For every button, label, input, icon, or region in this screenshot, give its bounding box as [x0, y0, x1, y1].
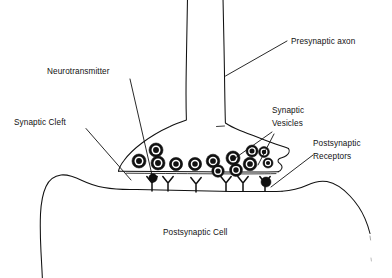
label-synaptic-vesicles-line2: Vesicles	[272, 119, 303, 128]
synapse-illustration: Presynaptic axon Neurotransmitter Synapt…	[0, 0, 392, 278]
label-presynaptic-axon: Presynaptic axon	[291, 37, 356, 46]
presynaptic-membrane-line-inner	[126, 173, 276, 174]
leader-postsynaptic-receptors	[271, 155, 313, 187]
synaptic-vesicle	[243, 157, 257, 171]
synaptic-vesicle	[226, 151, 240, 165]
labels-group: Presynaptic axon Neurotransmitter Synapt…	[14, 37, 361, 237]
postsynaptic-cell-shape	[40, 175, 371, 278]
postsynaptic-left-contour	[40, 175, 137, 278]
synapse-diagram: Presynaptic axon Neurotransmitter Synapt…	[0, 0, 392, 278]
synaptic-vesicle	[149, 143, 163, 157]
postsynaptic-receptor	[191, 178, 201, 193]
postsynaptic-right-contour	[282, 181, 370, 233]
label-postsynaptic-receptors-line1: Postsynaptic	[313, 139, 361, 148]
neurotransmitter-dots-group	[149, 174, 271, 187]
synaptic-vesicle	[169, 157, 182, 170]
synaptic-vesicle	[188, 157, 201, 170]
synaptic-vesicle	[230, 164, 243, 177]
postsynaptic-receptor	[163, 177, 173, 192]
label-synaptic-vesicles-line1: Synaptic	[272, 106, 304, 115]
synaptic-vesicle	[259, 147, 270, 158]
synaptic-vesicle	[263, 158, 273, 168]
postsynaptic-receptor	[238, 177, 248, 192]
synaptic-vesicle	[151, 156, 165, 170]
presynaptic-membrane	[119, 171, 279, 174]
axon-terminal-right-contour	[278, 149, 289, 172]
label-neurotransmitter: Neurotransmitter	[47, 67, 110, 76]
presynaptic-axon-shape	[119, 0, 290, 172]
synaptic-vesicle	[132, 154, 146, 168]
label-synaptic-cleft: Synaptic Cleft	[14, 118, 67, 127]
synaptic-vesicle	[246, 145, 258, 157]
synaptic-vesicle	[212, 165, 224, 177]
leader-presynaptic-axon	[226, 41, 288, 76]
axon-inner-tick	[217, 126, 225, 127]
postsynaptic-membrane-line	[137, 190, 282, 192]
presynaptic-membrane-line	[119, 171, 279, 172]
label-postsynaptic-cell: Postsynaptic Cell	[163, 228, 228, 237]
postsynaptic-receptor	[221, 177, 231, 192]
postsynaptic-right-contour-faint	[370, 236, 371, 240]
leader-synaptic-cleft	[86, 129, 131, 181]
label-postsynaptic-receptors-line2: Receptors	[313, 152, 351, 161]
